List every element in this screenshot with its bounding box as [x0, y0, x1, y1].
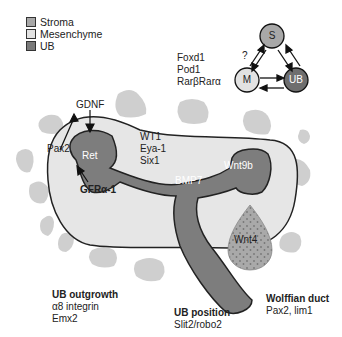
legend: Stroma Mesenchyme UB [26, 16, 102, 52]
label-gdnf: GDNF [76, 99, 104, 111]
label-gfra1: GFRα-1 [80, 184, 116, 196]
gene-foxd1: Foxd1 [177, 52, 205, 64]
label-pax2: Pax2 [47, 143, 70, 155]
mesenchyme-swatch [26, 29, 36, 39]
ub-outgrowth-line1: α8 integrin [52, 301, 99, 313]
label-ret: Ret [82, 150, 98, 162]
question-mark: ? [242, 50, 248, 62]
stroma-swatch [26, 17, 36, 27]
wolffian-duct-line1: Pax2, lim1 [266, 305, 313, 317]
node-ub-label: UB [286, 74, 306, 85]
label-eya1: Eya-1 [140, 143, 166, 155]
label-six1: Six1 [140, 155, 159, 167]
legend-label: Stroma [40, 16, 74, 28]
legend-item-stroma: Stroma [26, 16, 102, 28]
ub-position-title: UB position [174, 307, 230, 319]
legend-label: UB [40, 40, 55, 52]
ub-outgrowth-title: UB outgrowth [52, 289, 118, 301]
label-bmp7: BMP7 [175, 175, 202, 187]
ub-position-line1: Slit2/robo2 [174, 319, 222, 331]
node-m-label: M [237, 74, 257, 85]
label-wt1: WT1 [140, 131, 161, 143]
legend-item-mesenchyme: Mesenchyme [26, 28, 102, 40]
gene-rar: RarβRarα [177, 76, 221, 88]
ub-swatch [26, 41, 36, 51]
label-wnt4: Wnt4 [234, 234, 257, 246]
legend-item-ub: UB [26, 40, 102, 52]
node-s-label: S [262, 30, 282, 41]
wolffian-duct-title: Wolffian duct [266, 293, 329, 305]
legend-label: Mesenchyme [40, 28, 102, 40]
gene-pod1: Pod1 [177, 64, 200, 76]
ub-outgrowth-line2: Emx2 [52, 313, 78, 325]
label-wnt9b: Wnt9b [224, 160, 253, 172]
